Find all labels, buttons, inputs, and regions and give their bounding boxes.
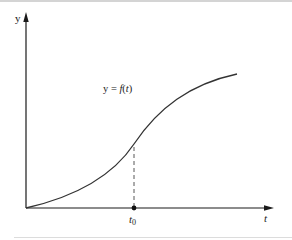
x-axis-arrowhead-icon (264, 205, 274, 210)
t-axis-label: t (264, 213, 267, 224)
sigmoid-diagram: y t y = f(t) t0 (0, 0, 292, 240)
curve-equation-label: y = f(t) (103, 84, 132, 95)
equation-equals: = (108, 83, 119, 94)
t0-label: t0 (129, 214, 136, 227)
y-axis-arrowhead-icon (23, 12, 28, 22)
t0-label-subscript: 0 (132, 218, 136, 227)
plot-area (0, 0, 292, 240)
y-axis-label: y (15, 13, 21, 24)
t0-point-marker (132, 206, 137, 211)
equation-paren-close: ) (129, 83, 133, 94)
